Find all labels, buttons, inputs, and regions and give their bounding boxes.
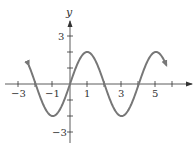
- x-tick-label: 1: [84, 88, 90, 99]
- x-tick-label: 5: [152, 88, 158, 99]
- x-tick-label: −1: [45, 88, 60, 99]
- y-tick-label: −3: [52, 127, 67, 138]
- y-axis-label: y: [65, 6, 73, 19]
- x-tick-label: −3: [11, 88, 26, 99]
- chart-canvas: y −3 −1 1 3 5 3 −3: [0, 0, 195, 150]
- x-tick-label: 3: [118, 88, 124, 99]
- y-tick-label: 3: [58, 31, 64, 42]
